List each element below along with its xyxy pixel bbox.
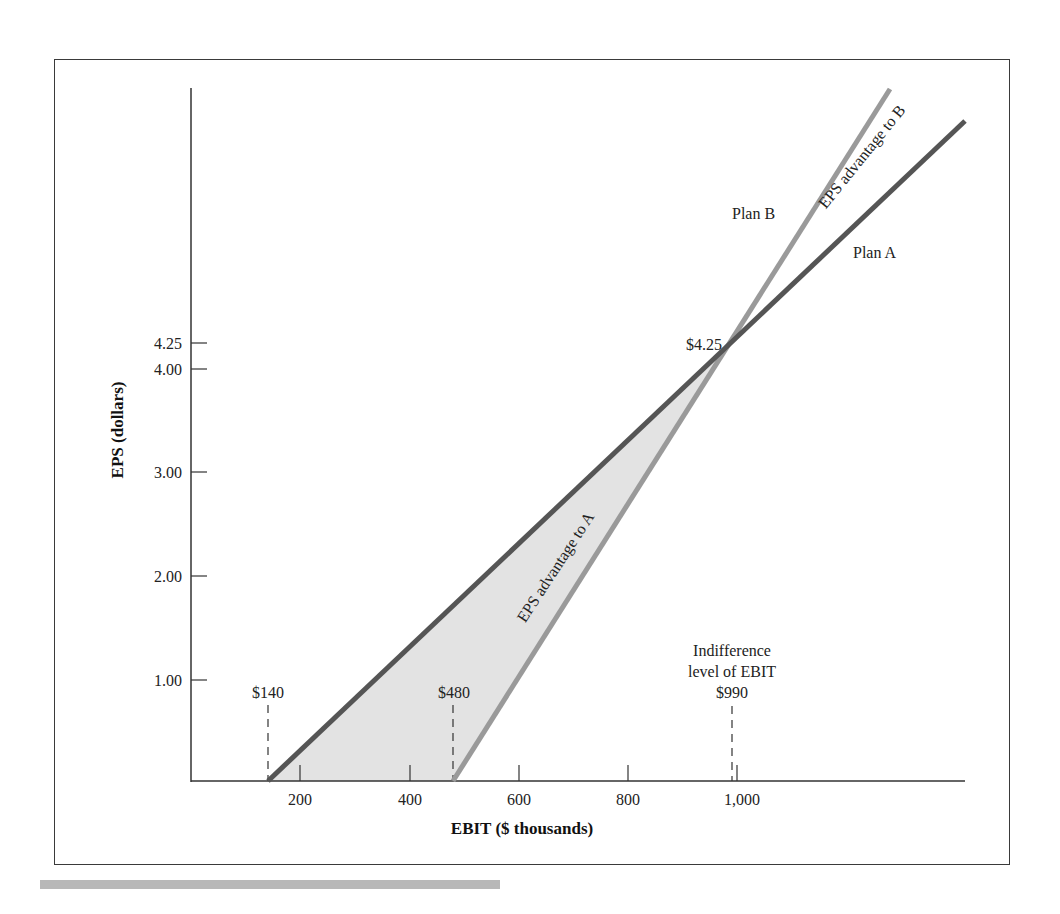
indifference-label-line2: level of EBIT [688, 663, 776, 680]
x-tick-label: 400 [398, 791, 422, 808]
y-tick-label: 4.25 [154, 335, 182, 352]
marker-480-label: $480 [438, 684, 470, 701]
indifference-label-line1: Indifference [693, 642, 771, 659]
eps-ebit-chart: 1.00 2.00 3.00 4.00 4.25 200 400 600 800… [0, 0, 1060, 914]
advantage-b-label: EPS advantage to B [815, 102, 909, 212]
y-tick-label: 4.00 [154, 361, 182, 378]
y-tick-label: 3.00 [154, 464, 182, 481]
indifference-value: $990 [716, 684, 748, 701]
y-tick-label: 2.00 [154, 568, 182, 585]
y-ticks [191, 343, 207, 680]
crossing-value-label: $4.25 [686, 336, 722, 353]
y-tick-label: 1.00 [154, 672, 182, 689]
plan-a-line [268, 121, 965, 781]
x-tick-label: 200 [288, 791, 312, 808]
x-tick-label: 600 [507, 791, 531, 808]
x-tick-label: 800 [616, 791, 640, 808]
plan-b-label: Plan B [732, 205, 775, 222]
y-axis-title: EPS (dollars) [108, 382, 127, 479]
marker-140-label: $140 [252, 684, 284, 701]
x-axis-title: EBIT ($ thousands) [451, 819, 593, 838]
x-tick-label: 1,000 [724, 791, 760, 808]
plan-a-label: Plan A [853, 244, 897, 261]
bottom-rule-bar [40, 880, 500, 889]
